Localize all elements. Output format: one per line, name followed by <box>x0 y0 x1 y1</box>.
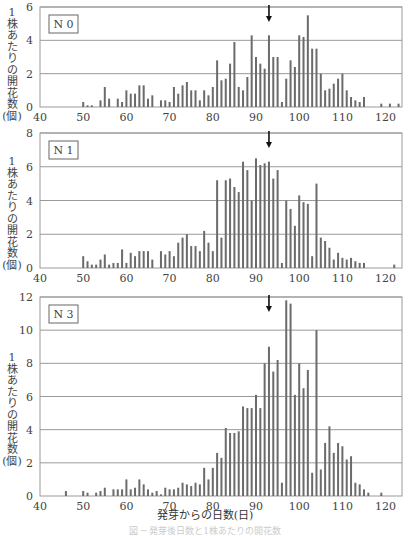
bar <box>143 484 145 496</box>
bar <box>216 180 218 268</box>
bar <box>238 192 240 268</box>
bar <box>238 87 240 107</box>
y-tick-label: 10 <box>19 324 33 337</box>
bar <box>130 94 132 107</box>
bar <box>143 85 145 107</box>
bar <box>346 90 348 107</box>
x-tick-label: 50 <box>76 272 90 285</box>
bar <box>320 469 322 496</box>
bar <box>121 249 123 268</box>
bar <box>212 468 214 496</box>
bar <box>242 90 244 107</box>
bar <box>82 491 84 496</box>
y-tick-label: 4 <box>26 195 33 208</box>
bar <box>125 90 127 107</box>
bar <box>95 493 97 496</box>
bar <box>99 491 101 496</box>
bar <box>264 163 266 268</box>
bar <box>151 260 153 268</box>
bar <box>108 99 110 107</box>
flowering-charts-figure: 0246405060708090100110120N 01株あたりの開花数(個)… <box>0 0 409 536</box>
y-axis-label-char: (個) <box>2 259 22 272</box>
series-label: N 0 <box>53 18 73 31</box>
bar <box>359 484 361 496</box>
bar <box>151 95 153 107</box>
bar <box>203 90 205 107</box>
y-tick-label: 2 <box>26 68 33 81</box>
series-label: N 3 <box>53 308 73 321</box>
bar <box>220 80 222 107</box>
y-tick-label: 4 <box>26 34 33 47</box>
bar <box>229 64 231 107</box>
bar <box>290 209 292 268</box>
bar <box>177 488 179 496</box>
bar <box>147 251 149 268</box>
x-tick-label: 120 <box>375 111 396 124</box>
bar <box>190 246 192 268</box>
bar <box>320 74 322 107</box>
bar <box>207 243 209 268</box>
bar <box>315 330 317 496</box>
y-axis-label-char: (個) <box>2 455 22 468</box>
bar <box>303 37 305 107</box>
bar <box>294 395 296 496</box>
bar <box>393 265 395 268</box>
bar <box>182 85 184 107</box>
bar <box>303 388 305 496</box>
arrow-head-icon <box>266 16 272 22</box>
bar <box>195 90 197 107</box>
bar <box>134 256 136 268</box>
bar <box>337 79 339 107</box>
bar <box>346 260 348 268</box>
bar <box>324 241 326 268</box>
x-tick-label: 110 <box>332 500 353 513</box>
y-tick-label: 6 <box>26 161 33 174</box>
y-tick-label: 2 <box>26 457 33 470</box>
bar <box>147 99 149 107</box>
bar <box>246 77 248 107</box>
bar <box>238 431 240 496</box>
bar <box>328 89 330 107</box>
bar <box>277 57 279 107</box>
bar <box>246 170 248 268</box>
bar <box>229 179 231 268</box>
x-tick-label: 40 <box>33 111 47 124</box>
bar <box>169 251 171 268</box>
bar <box>233 187 235 268</box>
bar <box>333 260 335 268</box>
bar <box>233 42 235 107</box>
bar <box>130 489 132 496</box>
bar <box>65 491 67 496</box>
bar <box>337 443 339 496</box>
bar <box>138 251 140 268</box>
bar <box>281 483 283 496</box>
y-tick-label: 0 <box>26 262 33 275</box>
bar <box>233 433 235 496</box>
bar <box>121 489 123 496</box>
bar <box>220 458 222 496</box>
bar <box>311 473 313 496</box>
bar <box>108 265 110 268</box>
bar <box>117 263 119 268</box>
bar <box>182 238 184 268</box>
x-tick-label: 40 <box>33 272 47 285</box>
bar <box>281 263 283 268</box>
bar <box>112 263 114 268</box>
bar <box>130 253 132 268</box>
x-tick-label: 60 <box>119 500 133 513</box>
y-tick-label: 6 <box>26 391 33 404</box>
bar <box>160 251 162 268</box>
y-tick-label: 0 <box>26 490 33 503</box>
bar <box>195 246 197 268</box>
bar <box>264 69 266 107</box>
bar <box>354 483 356 496</box>
bar <box>82 256 84 268</box>
bar <box>91 105 93 107</box>
bar <box>268 162 270 268</box>
chart-panel-n3: 024681012405060708090100110120N 31株あたりの開… <box>2 291 402 513</box>
bar <box>173 87 175 107</box>
bar <box>328 426 330 496</box>
bar <box>346 460 348 496</box>
bar <box>272 57 274 107</box>
bar <box>251 201 253 269</box>
